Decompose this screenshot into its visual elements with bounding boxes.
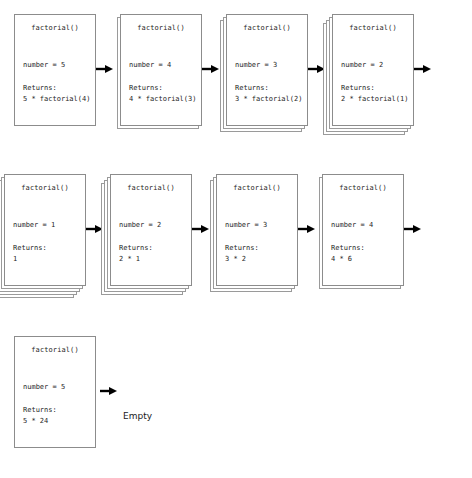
card-number-value: number = 1: [13, 221, 55, 229]
card-returns-label: Returns:: [225, 244, 259, 252]
card-returns-label: Returns:: [341, 84, 375, 92]
card-title: factorial(): [323, 184, 403, 192]
card-number-value: number = 5: [23, 383, 65, 391]
call-frame-card: factorial()number = 5Returns:5 * 24: [14, 336, 96, 448]
arrow-right-icon: [96, 336, 122, 448]
empty-stack-indicator: Empty: [96, 336, 152, 448]
call-frame-card: factorial()number = 3Returns:3 * 2: [216, 174, 298, 286]
card-title: factorial(): [15, 346, 95, 354]
stack-group: factorial()number = 4Returns:4 * factori…: [120, 14, 202, 126]
stack-group: factorial()number = 2Returns:2 * factori…: [332, 14, 414, 126]
stack-group: factorial()number = 5Returns:5 * 24: [14, 336, 96, 448]
card-number-value: number = 5: [23, 61, 65, 69]
empty-label: Empty: [123, 411, 152, 421]
card-number-value: number = 2: [119, 221, 161, 229]
call-frame-stack: factorial()number = 3Returns:3 * 2: [216, 174, 298, 286]
card-title: factorial(): [121, 24, 201, 32]
arrow-right-icon: [404, 174, 426, 286]
card-title: factorial(): [217, 184, 297, 192]
card-returns-value: 2 * 1: [119, 255, 140, 263]
card-returns-value: 5 * factorial(4): [23, 95, 90, 103]
card-returns-value: 2 * factorial(1): [341, 95, 408, 103]
call-frame-stack: factorial()number = 4Returns:4 * 6: [322, 174, 404, 286]
card-returns-label: Returns:: [235, 84, 269, 92]
call-frame-stack: factorial()number = 3Returns:3 * factori…: [226, 14, 308, 126]
stack-group: factorial()number = 4Returns:4 * 6: [322, 174, 404, 286]
card-returns-value: 4 * 6: [331, 255, 352, 263]
call-frame-stack: factorial()number = 4Returns:4 * factori…: [120, 14, 202, 126]
card-title: factorial(): [227, 24, 307, 32]
card-number-value: number = 2: [341, 61, 383, 69]
stack-group: factorial()number = 3Returns:3 * 2: [216, 174, 298, 286]
final-row: factorial()number = 5Returns:5 * 24Empty: [0, 336, 472, 448]
call-frame-stack: factorial()number = 5Returns:5 * factori…: [14, 14, 96, 126]
call-frame-stack: factorial()number = 5Returns:5 * 24: [14, 336, 96, 448]
card-number-value: number = 3: [225, 221, 267, 229]
card-returns-value: 3 * 2: [225, 255, 246, 263]
card-returns-value: 4 * factorial(3): [129, 95, 196, 103]
stack-group: factorial()number = 2Returns:2 * 1: [110, 174, 192, 286]
card-number-value: number = 3: [235, 61, 277, 69]
card-title: factorial(): [333, 24, 413, 32]
card-returns-label: Returns:: [331, 244, 365, 252]
call-frame-card: factorial()number = 4Returns:4 * 6: [322, 174, 404, 286]
call-frame-card: factorial()number = 5Returns:5 * factori…: [14, 14, 96, 126]
call-frame-card: factorial()number = 4Returns:4 * factori…: [120, 14, 202, 126]
stack-group: factorial()number = 1Returns:1: [4, 174, 86, 286]
call-frame-card: factorial()number = 1Returns:1: [4, 174, 86, 286]
card-returns-value: 3 * factorial(2): [235, 95, 302, 103]
call-frame-stack: factorial()number = 1Returns:1: [4, 174, 86, 286]
card-title: factorial(): [5, 184, 85, 192]
call-frame-card: factorial()number = 2Returns:2 * factori…: [332, 14, 414, 126]
card-title: factorial(): [111, 184, 191, 192]
card-returns-label: Returns:: [129, 84, 163, 92]
stack-group: factorial()number = 3Returns:3 * factori…: [226, 14, 308, 126]
stack-group: factorial()number = 5Returns:5 * factori…: [14, 14, 96, 126]
card-returns-label: Returns:: [13, 244, 47, 252]
arrow-right-icon: [414, 14, 436, 126]
card-returns-label: Returns:: [119, 244, 153, 252]
return-phase-row: factorial()number = 1Returns:1factorial(…: [0, 174, 472, 286]
card-title: factorial(): [15, 24, 95, 32]
card-returns-label: Returns:: [23, 84, 57, 92]
call-frame-card: factorial()number = 3Returns:3 * factori…: [226, 14, 308, 126]
card-returns-value: 5 * 24: [23, 417, 48, 425]
call-frame-card: factorial()number = 2Returns:2 * 1: [110, 174, 192, 286]
call-frame-stack: factorial()number = 2Returns:2 * factori…: [332, 14, 414, 126]
card-number-value: number = 4: [129, 61, 171, 69]
card-returns-label: Returns:: [23, 406, 57, 414]
call-stack-diagram: factorial()number = 5Returns:5 * factori…: [0, 0, 472, 478]
card-returns-value: 1: [13, 255, 17, 263]
call-phase-row: factorial()number = 5Returns:5 * factori…: [0, 14, 472, 126]
card-number-value: number = 4: [331, 221, 373, 229]
call-frame-stack: factorial()number = 2Returns:2 * 1: [110, 174, 192, 286]
